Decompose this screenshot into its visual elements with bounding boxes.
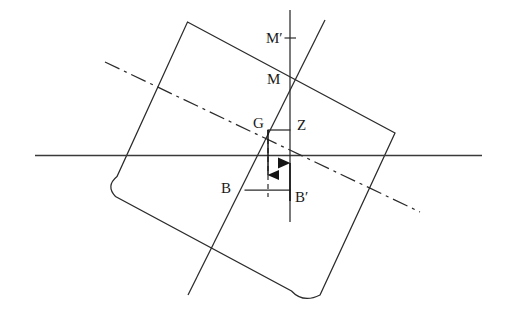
label-m-prime: M′ xyxy=(266,31,283,46)
label-g: G xyxy=(253,116,264,131)
diagram-canvas: M′ M G Z B B′ xyxy=(0,0,507,320)
label-b-prime: B′ xyxy=(295,190,308,205)
label-m: M xyxy=(267,72,280,87)
inclined-centreline xyxy=(188,20,325,295)
hull-outline xyxy=(111,22,395,298)
label-z: Z xyxy=(297,118,306,133)
ship-stability-diagram-svg xyxy=(0,0,507,320)
label-b: B xyxy=(221,181,231,196)
